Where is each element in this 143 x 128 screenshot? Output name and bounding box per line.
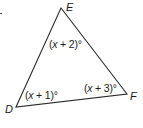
angle-d-close: )° — [50, 89, 57, 101]
vertex-label-f: F — [130, 91, 137, 102]
angle-label-d: (x + 1)° — [25, 89, 58, 101]
triangle-def-shape — [0, 0, 143, 128]
angle-e-close: )° — [74, 38, 81, 50]
angle-d-op: + — [33, 89, 44, 101]
angle-label-e: (x + 2)° — [49, 38, 82, 50]
vertex-label-d: D — [5, 104, 13, 115]
triangle-diagram: E D F (x + 2)° (x + 1)° (x + 3)° — [0, 0, 143, 128]
vertex-label-e: E — [66, 2, 73, 13]
angle-e-op: + — [57, 38, 68, 50]
angle-f-op: + — [92, 82, 103, 94]
angle-f-close: )° — [109, 82, 116, 94]
angle-label-f: (x + 3)° — [84, 82, 117, 94]
